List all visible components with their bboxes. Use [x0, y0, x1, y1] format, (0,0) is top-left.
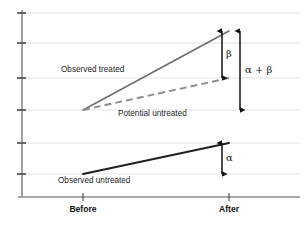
- series-label-observed-treated: Observed treated: [61, 66, 124, 74]
- annotation-label-beta: β: [226, 49, 232, 59]
- x-axis-tick-label-before: Before: [69, 205, 96, 214]
- difference-in-differences-figure: Observed treated Potential untreated Obs…: [0, 0, 304, 229]
- annotation-label-alpha-plus-beta: α + β: [245, 65, 272, 75]
- annotation-label-alpha: α: [226, 153, 233, 163]
- series-label-observed-untreated: Observed untreated: [58, 177, 130, 185]
- x-axis-tick-label-after: After: [219, 205, 239, 214]
- series-label-potential-untreated: Potential untreated: [118, 110, 187, 118]
